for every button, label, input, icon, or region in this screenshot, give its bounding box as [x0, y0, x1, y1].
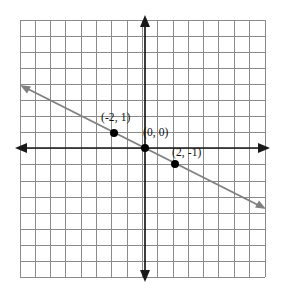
point-label-neg2-1: (-2, 1): [101, 112, 130, 124]
y-axis-arrow-up-icon: [140, 15, 150, 27]
point-marker: [141, 144, 149, 152]
coordinate-plane-figure: (-2, 1) (0, 0) (2, -1): [0, 0, 284, 297]
x-axis-arrow-right-icon: [258, 143, 270, 153]
x-axis-arrow-left-icon: [15, 143, 27, 153]
y-axis-arrow-down-icon: [140, 270, 150, 282]
point-label-2-neg1: (2, -1): [172, 147, 201, 159]
line-arrow-end-icon: [255, 201, 266, 210]
point-marker: [110, 129, 118, 137]
graph-canvas: [0, 0, 284, 297]
point-marker: [171, 160, 179, 168]
line-arrow-start-icon: [20, 85, 31, 94]
point-label-origin: (0, 0): [143, 127, 169, 139]
